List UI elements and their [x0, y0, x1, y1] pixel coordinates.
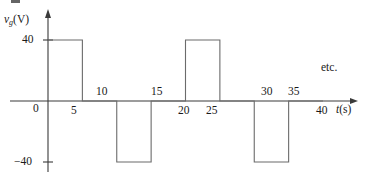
- x-tick-label-20: 20: [178, 105, 190, 117]
- continuation-annotation: etc.: [321, 62, 337, 74]
- x-tick-label-15: 15: [151, 86, 163, 98]
- y-tick-label-negative-40: −40: [14, 156, 32, 168]
- x-tick-label-40: 40: [316, 105, 328, 117]
- y-tick-label-positive-40: 40: [22, 34, 34, 46]
- x-tick-label-10: 10: [96, 86, 108, 98]
- y-axis-label-unit: (V): [13, 13, 29, 25]
- y-axis-label: vg(V): [4, 14, 29, 27]
- voltage-waveform-figure: vg(V) t(s) 40 −40 0 5 20 25 40 10 15 30 …: [0, 0, 374, 182]
- x-tick-label-25: 25: [206, 105, 218, 117]
- origin-label: 0: [33, 103, 39, 115]
- y-axis: [45, 9, 51, 172]
- x-tick-label-35: 35: [288, 86, 300, 98]
- x-tick-label-5: 5: [71, 105, 77, 117]
- x-axis-label: t(s): [336, 104, 351, 116]
- waveform-plot-canvas: [0, 0, 374, 182]
- x-tick-label-30: 30: [261, 86, 273, 98]
- x-axis-label-unit: (s): [339, 103, 351, 115]
